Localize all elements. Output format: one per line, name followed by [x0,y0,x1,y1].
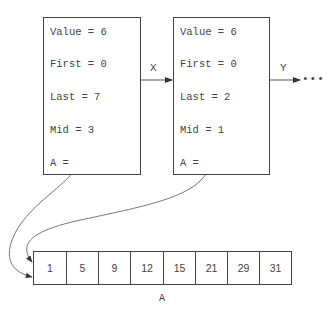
edge-label-x: X [150,62,157,74]
frame-2-last: Last = 2 [180,91,230,103]
array-label: A [159,293,165,304]
frame-1-a: A = [50,157,69,169]
frame-2-a: A = [180,157,199,169]
array-cell: 1 [34,252,67,284]
frame-1-mid: Mid = 3 [50,124,94,136]
frame-2-first: First = 0 [180,58,237,70]
continuation-dots: ••• [302,73,325,85]
array-cell: 29 [228,252,260,284]
frame-1: Value = 6 First = 0 Last = 7 Mid = 3 A = [43,17,141,175]
frame-2-value: Value = 6 [180,26,237,38]
array-a: 1 5 9 12 15 21 29 31 [33,251,292,285]
pointer-arrow-2 [27,163,210,262]
frame-1-value: Value = 6 [50,26,107,38]
frame-1-last: Last = 7 [50,91,100,103]
array-cell: 31 [260,252,291,284]
array-cell: 12 [131,252,164,284]
frame-2: Value = 6 First = 0 Last = 2 Mid = 1 A = [173,17,270,175]
edge-label-y: Y [280,62,287,74]
frame-2-mid: Mid = 1 [180,124,224,136]
frame-1-first: First = 0 [50,58,107,70]
array-cell: 9 [99,252,131,284]
array-cell: 15 [164,252,196,284]
array-cell: 5 [67,252,99,284]
array-cell: 21 [196,252,228,284]
